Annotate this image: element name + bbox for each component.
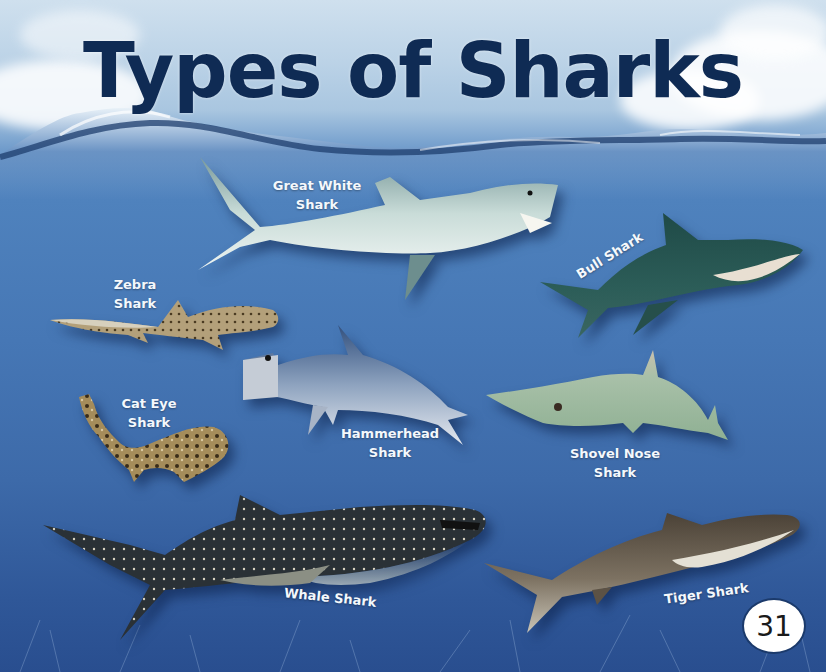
whale-shark-image [40, 495, 490, 645]
page-number-badge: 31 [742, 598, 806, 654]
great-white-shark-image [190, 155, 565, 305]
book-page: Types of Sharks Great White Shark Bull S… [0, 0, 826, 672]
great-white-shark-label: Great White Shark [262, 176, 372, 214]
hammerhead-shark-label: Hammerhead Shark [335, 424, 445, 462]
shovel-nose-shark-label: Shovel Nose Shark [560, 444, 670, 482]
shovel-nose-shark-image [483, 345, 728, 440]
page-title: Types of Sharks [0, 26, 826, 115]
cat-eye-shark-label: Cat Eye Shark [114, 394, 184, 432]
zebra-shark-label: Zebra Shark [100, 275, 170, 313]
